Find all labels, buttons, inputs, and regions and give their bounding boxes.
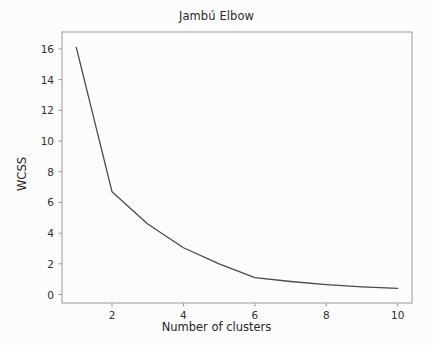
y-tick-label: 16 (20, 43, 54, 55)
y-axis-label: WCSS (15, 134, 29, 214)
y-tick-label: 14 (20, 74, 54, 86)
x-axis-label: Number of clusters (0, 320, 433, 334)
y-tick-label: 2 (20, 258, 54, 270)
plot-background (62, 32, 412, 303)
plot-canvas (0, 0, 433, 345)
y-tick-label: 0 (20, 289, 54, 301)
y-tick-label: 4 (20, 227, 54, 239)
elbow-chart-figure: Jambú Elbow 0246810121416 246810 Number … (0, 0, 433, 345)
y-tick-label: 12 (20, 104, 54, 116)
